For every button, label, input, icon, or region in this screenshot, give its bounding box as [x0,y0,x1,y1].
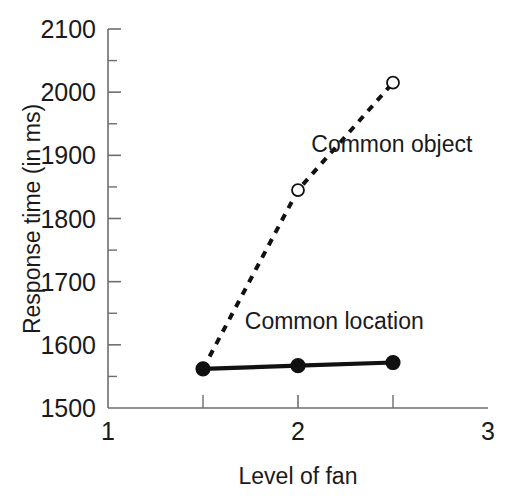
series-annotations: Common objectCommon location [245,131,473,334]
data-point-marker [291,359,305,373]
y-tick-label: 2100 [40,15,96,43]
x-tick-label: 3 [481,417,495,445]
y-tick-label: 1900 [40,141,96,169]
series-annotation: Common location [245,308,424,334]
y-tick-label: 1800 [40,205,96,233]
y-tick-label: 1500 [40,394,96,422]
x-axis-tick-labels: 123 [101,417,495,445]
data-point-marker [386,356,400,370]
y-axis-tick-labels: 1500160017001800190020002100 [40,15,96,422]
x-tick-label: 1 [101,417,115,445]
x-tick-label: 2 [291,417,305,445]
series-annotation: Common object [311,131,473,157]
y-tick-label: 1600 [40,331,96,359]
y-tick-label: 2000 [40,78,96,106]
data-point-marker [196,362,210,376]
data-point-marker [292,184,304,196]
y-axis-title: Response time (in ms) [19,104,45,334]
chart-container: 1500160017001800190020002100 123 Common … [0,0,521,499]
data-point-marker [387,77,399,89]
y-tick-label: 1700 [40,268,96,296]
line-chart: 1500160017001800190020002100 123 Common … [0,0,521,499]
x-axis-title: Level of fan [239,463,358,489]
